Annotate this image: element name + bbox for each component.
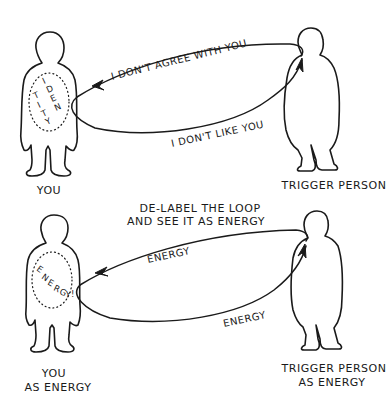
caption: DE-LABEL THE LOOP AND SEE IT AS ENERGY: [127, 202, 265, 228]
you-as-energy-figure: E N E R G Y ! YOU AS ENERGY: [25, 215, 92, 394]
trigger-person-as-energy-label-line-2: AS ENERGY: [299, 376, 366, 389]
energy-loop-upper-arc: [80, 230, 308, 285]
identity-inner-label: I D E N T I T Y: [31, 75, 63, 127]
bottom-loop: ENERGY ENERGY: [77, 230, 308, 329]
top-panel: I D E N T I T Y YOU TRIGGER PERSON I DON…: [21, 28, 386, 197]
identity-letter: T: [31, 89, 42, 101]
trigger-person-as-energy-label-line-1: TRIGGER PERSON: [281, 362, 386, 375]
trigger-person-label: TRIGGER PERSON: [281, 179, 386, 192]
you-body-outline: [21, 32, 78, 176]
bottom-panel: E N E R G Y ! YOU AS ENERGY TRIGGER PERS…: [25, 211, 386, 394]
energy-loop-diagram: I D E N T I T Y YOU TRIGGER PERSON I DON…: [0, 0, 386, 415]
loop-lower-arc: [72, 60, 302, 133]
you-label: YOU: [36, 184, 61, 197]
trigger-person-figure: TRIGGER PERSON: [281, 28, 386, 192]
you-as-energy-label-line-2: AS ENERGY: [25, 381, 92, 394]
energy-letter: !: [71, 289, 75, 299]
loop-upper-text: I DON'T AGREE WITH YOU: [110, 37, 248, 81]
trigger-person-body-outline: [284, 28, 339, 171]
you-figure: I D E N T I T Y YOU: [21, 32, 78, 197]
arrow-toward-you-icon: [92, 80, 104, 90]
energy-loop-lower-text: ENERGY: [222, 309, 267, 329]
caption-line-2: AND SEE IT AS ENERGY: [127, 215, 265, 228]
identity-letter: Y: [43, 115, 54, 127]
trigger-person-as-energy-figure: TRIGGER PERSON AS ENERGY: [281, 211, 386, 389]
top-loop: I DON'T AGREE WITH YOU I DON'T LIKE YOU: [72, 37, 303, 149]
trigger-person-as-energy-body-outline: [291, 211, 342, 350]
energy-loop-lower-arc: [77, 246, 306, 321]
you-as-energy-label-line-1: YOU: [41, 367, 66, 380]
caption-line-1: DE-LABEL THE LOOP: [139, 202, 260, 215]
identity-letter: N: [53, 101, 63, 113]
energy-inner-label: E N E R G Y !: [35, 263, 75, 300]
